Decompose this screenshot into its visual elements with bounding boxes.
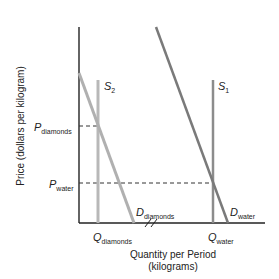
x-axis-title-line1: Quantity per Period	[130, 249, 216, 260]
d-diamonds-demand-line	[79, 73, 134, 223]
d-water-label: Dwater	[230, 206, 256, 220]
s2-label: S2	[104, 80, 115, 94]
s1-label: S1	[218, 80, 229, 94]
p-water-label: Pwater	[49, 178, 74, 192]
q-water-label: Qwater	[208, 231, 234, 245]
y-axis-title: Price (dollars per kilogram)	[15, 66, 26, 185]
d-water-demand-line	[156, 27, 228, 223]
supply-demand-diagram: S2 S1 Ddiamonds Dwater Pdiamonds Pwater …	[0, 0, 279, 279]
x-axis-title-line2: (kilograms)	[148, 261, 197, 272]
p-diamonds-label: Pdiamonds	[34, 121, 72, 135]
q-diamonds-label: Qdiamonds	[93, 231, 132, 245]
d-diamonds-label: Ddiamonds	[136, 206, 175, 220]
